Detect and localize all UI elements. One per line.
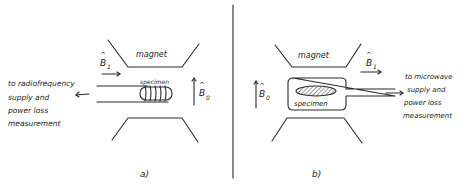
- panel-label: a): [140, 169, 149, 179]
- svg-text:supply and: supply and: [407, 86, 446, 94]
- b0-hat: ^: [199, 81, 205, 89]
- panel-label: b): [312, 169, 321, 179]
- b0-subscript: 0: [206, 94, 210, 101]
- diagram-canvas: magnet B ^ 1 specimen B ^ 0 to: [0, 0, 476, 190]
- specimen-label: specimen: [140, 78, 169, 86]
- b1-hat: ^: [366, 51, 372, 59]
- specimen: [296, 86, 336, 96]
- svg-text:to radiofrequency: to radiofrequency: [8, 79, 75, 88]
- coil-winding: [145, 86, 166, 101]
- b1-hat: ^: [100, 51, 106, 59]
- magnet-label: magnet: [298, 51, 330, 60]
- output-arrow: [76, 94, 89, 95]
- b0-label: B: [199, 88, 205, 98]
- b0-subscript: 0: [266, 94, 270, 101]
- magnet-bottom-pole: [112, 118, 198, 142]
- b1-label: B: [100, 58, 106, 68]
- b1-subscript: 1: [107, 63, 111, 70]
- panel-b: magnet B ^ 0 B ^ 1 specimen to microwave…: [254, 44, 453, 179]
- magnet-label: magnet: [136, 50, 168, 59]
- svg-text:measurement: measurement: [403, 112, 452, 120]
- b0-label: B: [259, 89, 265, 99]
- connection-text: to radiofrequency supply and power loss …: [7, 79, 75, 128]
- b0-hat: ^: [259, 82, 265, 90]
- svg-text:measurement: measurement: [8, 119, 62, 128]
- svg-text:to microwave: to microwave: [405, 73, 453, 81]
- connection-text: to microwave supply and power loss measu…: [403, 73, 453, 120]
- svg-text:power loss: power loss: [7, 106, 48, 115]
- b1-subscript: 1: [373, 63, 377, 70]
- svg-text:power loss: power loss: [403, 99, 442, 107]
- magnet-bottom-pole: [272, 118, 362, 143]
- b1-label: B: [366, 58, 372, 68]
- svg-text:supply and: supply and: [8, 93, 49, 102]
- specimen-label: specimen: [294, 100, 328, 108]
- panel-a: magnet B ^ 1 specimen B ^ 0 to: [7, 40, 210, 179]
